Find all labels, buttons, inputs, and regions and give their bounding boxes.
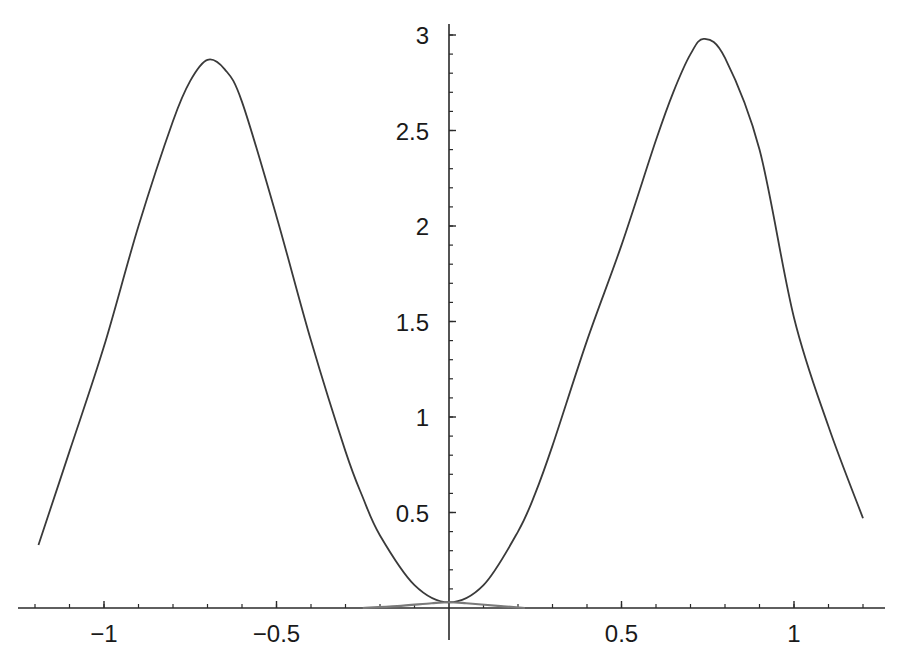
x-tick-label: 1 [787,620,800,647]
y-tick-label: 3 [416,22,429,49]
x-tick-label: −0.5 [253,620,300,647]
x-axis-tick-labels: −1−0.50.51 [90,620,800,647]
x-tick-label: 0.5 [605,620,638,647]
y-tick-label: 2.5 [396,118,429,145]
axes [18,24,885,640]
origin-bump-line [363,602,525,608]
data-series [38,39,863,608]
y-tick-label: 2 [416,213,429,240]
chart-plot-area: −1−0.50.51 0.511.522.53 [0,0,903,668]
y-tick-label: 1.5 [396,309,429,336]
y-axis-tick-labels: 0.511.522.53 [396,22,429,527]
x-tick-label: −1 [90,620,117,647]
y-tick-label: 1 [416,404,429,431]
y-tick-label: 0.5 [396,500,429,527]
main-curve-line [38,39,863,602]
